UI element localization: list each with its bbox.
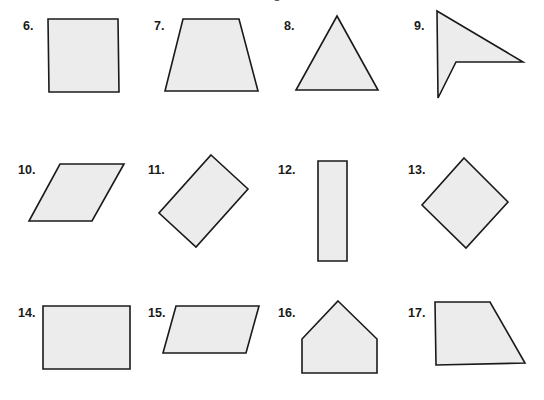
figure-label-8: 8. bbox=[284, 20, 294, 33]
figure-17-right-trapezoid bbox=[435, 302, 525, 365]
figure-7-trapezoid bbox=[165, 19, 258, 91]
figure-8-triangle bbox=[296, 16, 378, 90]
figure-label-17: 17. bbox=[408, 307, 425, 320]
figure-label-9: 9. bbox=[414, 20, 424, 33]
figure-10-parallelogram bbox=[29, 164, 124, 221]
figure-14-rectangle bbox=[43, 306, 130, 369]
figure-16-pentagon bbox=[302, 301, 377, 373]
figure-6-square bbox=[48, 19, 119, 92]
figure-label-12: 12. bbox=[278, 164, 295, 177]
figure-label-14: 14. bbox=[18, 307, 35, 320]
figure-9-concave-quadrilateral bbox=[437, 11, 523, 98]
figure-canvas bbox=[0, 0, 544, 400]
figure-label-16: 16. bbox=[278, 307, 295, 320]
figure-label-6: 6. bbox=[23, 20, 33, 33]
figure-12-tall-rectangle bbox=[318, 161, 347, 261]
figure-label-11: 11. bbox=[148, 164, 165, 177]
figure-label-15: 15. bbox=[148, 307, 165, 320]
figure-label-7: 7. bbox=[154, 20, 164, 33]
figure-label-10: 10. bbox=[18, 164, 35, 177]
figure-label-13: 13. bbox=[408, 164, 425, 177]
figure-13-rhombus bbox=[422, 158, 508, 248]
figure-15-parallelogram bbox=[163, 306, 259, 353]
figure-11-rotated-rectangle bbox=[159, 155, 248, 247]
